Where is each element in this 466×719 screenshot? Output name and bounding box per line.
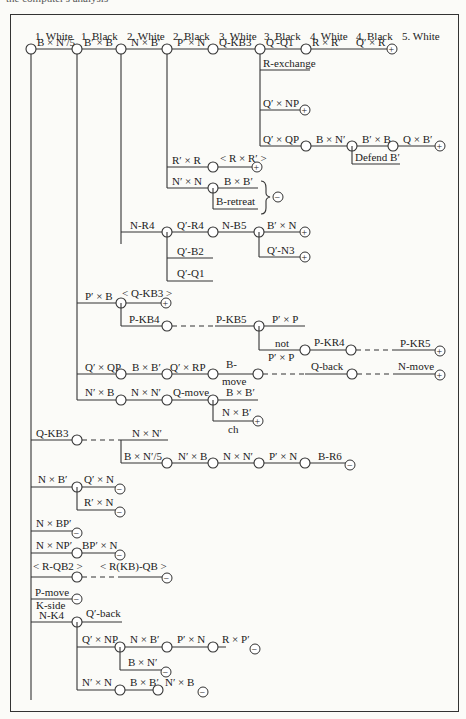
move-label: Q′-Q1 [177,267,204,279]
node [26,44,36,54]
node [72,435,82,445]
move-label: not [275,337,289,349]
move-label: P′ × P [272,313,298,325]
move-label: N′ × B [178,450,207,462]
move-label: Q′ × RP [170,361,206,373]
move-label: N × B′ [131,36,160,48]
branch-q-x-qp: Q′ × QP B × B′ Q′ × RP B- move Q-back N-… [77,358,445,387]
move-label: ch [228,423,239,435]
node [72,572,82,582]
move-label: N × N′ [132,427,162,439]
node [208,227,218,237]
move-label: N × N′ [223,450,253,462]
move-label: B × N′/5 [37,36,75,48]
branch-n-x-b-prime: N × B′ Q′ × N − R′ × N − [31,473,125,518]
move-label: N × B′ [38,473,67,485]
node [208,44,218,54]
node [162,44,172,54]
win-icon: + [437,141,443,152]
move-label: Q′-B2 [177,245,204,257]
branch-r-qb2: < R-QB2 > < R(KB)-QB > − [31,560,172,584]
move-label: Q′ × NP [82,633,118,645]
move-label: Q′-R4 [177,219,204,231]
node [346,345,356,355]
move-label: < R × R′ > [220,152,267,164]
loss-icon: − [200,687,206,698]
move-label: Defend B′ [355,151,400,163]
move-label: B × B′ [226,386,255,398]
node [72,548,82,558]
move-label: P′ × P [268,351,294,363]
node [208,369,218,379]
node [116,395,126,405]
move-label: Q′ × QP [263,133,299,145]
game-tree: 1. White 1. Black 2. White 2. Black 3. W… [0,0,466,719]
move-label: Q′-N3 [267,244,295,256]
node [301,44,311,54]
move-label: < R(KB)-QB > [100,560,167,573]
node [208,642,218,652]
node [162,642,172,652]
move-label: P-KR5 [400,337,431,349]
node [162,458,172,468]
move-label: N × BP′ [36,517,72,529]
win-icon: + [163,298,169,309]
loss-icon: − [347,460,353,471]
move-label: N-B5 [222,219,247,231]
move-label: N × N′ [131,386,161,398]
move-label: B′ × B [84,36,113,48]
branch-n-r4: N-R4 Q′-R4 N-B5 B′ × N + Q′-N3 + Q′-B2 Q… [121,219,310,281]
move-label: N × B′ [222,406,251,418]
move-label: P-KB4 [129,313,160,325]
branch-n-x-b: N′ × B N × N′ Q-move B × B′ N × B′ ch + [77,386,263,435]
node [254,458,264,468]
move-label: B-R6 [318,450,342,462]
node [300,458,310,468]
loss-icon: − [117,507,123,518]
move-label: R × R′ [312,36,341,48]
win-icon: + [302,105,308,116]
move-label: P′ × B [85,290,113,302]
node [116,369,126,379]
move-label: N-K4 [39,609,65,621]
move-label: P-move [35,586,69,598]
move-label: Q′ × N [84,473,114,485]
branch-n-k4: K-side N-K4 Q′-back Q′ × NP N × B′ P′ × … [31,599,260,698]
node [72,44,82,54]
move-label: N × NP′ [36,539,72,551]
move-label: B × B′ [224,175,253,187]
branch-n-x-bp: N × BP′ − [31,517,82,539]
move-label: N′ × N [172,175,202,187]
move-label: P′ × N [269,450,297,462]
branch-n-x-np: N × NP′ BP′ × N − [31,539,125,561]
move-label: R′ × N [84,496,113,508]
node [116,44,126,54]
node [388,141,398,151]
move-label: < R-QB2 > [33,560,83,572]
win-icon: + [437,370,443,381]
win-icon: + [254,162,260,173]
branch-p-x-n: R′ × R < R × R′ > + N′ × N B × B′ B-retr… [167,152,283,214]
node [301,141,311,151]
loss-icon: − [74,594,80,605]
move-label: B- [226,358,237,370]
branch-q-q1: R-exchange Q′ × NP + Q′ × QP B × N′ B′ ×… [260,57,445,164]
node [253,369,263,379]
win-icon: + [255,416,261,427]
move-label: Q′ × R [356,36,386,48]
win-icon: + [437,346,443,357]
branch-q-kb3: Q-KB3 N × N′ B × N′/5 N′ × B N × N′ P′ ×… [31,427,355,471]
node [208,458,218,468]
loss-icon: − [275,192,281,203]
move-label: N-move [398,360,434,372]
move-label: N′ × B [85,386,114,398]
node [153,685,163,695]
move-label: N′ × B [165,676,194,688]
move-label: B′ × B [362,133,391,145]
move-label: Q′ × NP [263,97,299,109]
move-label: B × N′ [316,133,345,145]
node [162,321,172,331]
loss-icon: − [117,550,123,561]
move-label: R′ × R [172,154,201,166]
move-label: N × B′ [130,633,159,645]
